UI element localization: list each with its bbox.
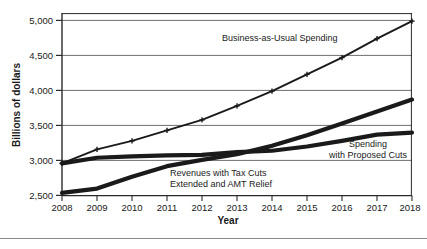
line-chart: 5,000 4,500 4,000 3,500 3,000 2,500 Bill… — [0, 0, 427, 249]
y-axis-ticks — [56, 20, 62, 195]
x-tick-label: 2008 — [51, 202, 72, 213]
y-tick-label: 5,000 — [29, 15, 53, 26]
annotation-business-as-usual: Business-as-Usual Spending — [222, 33, 338, 43]
x-tick-label: 2018 — [399, 202, 420, 213]
x-tick-label: 2009 — [86, 202, 107, 213]
y-axis-title: Billions of dollars — [11, 63, 22, 147]
y-tick-label: 3,000 — [29, 155, 53, 166]
y-tick-label: 4,000 — [29, 85, 53, 96]
y-tick-label: 2,500 — [29, 190, 53, 201]
x-tick-label: 2013 — [226, 202, 247, 213]
annotation-revenues-line2: Extended and AMT Relief — [170, 179, 272, 189]
x-tick-label: 2010 — [121, 202, 142, 213]
x-tick-label: 2011 — [157, 202, 177, 213]
annotation-spending-cuts-line1: Spending — [349, 139, 387, 149]
y-tick-label: 3,500 — [29, 120, 53, 131]
x-tick-label: 2014 — [261, 202, 282, 213]
x-axis-title: Year — [217, 215, 238, 226]
x-axis-ticks — [62, 196, 412, 201]
x-tick-label: 2017 — [366, 202, 387, 213]
x-tick-label: 2016 — [331, 202, 352, 213]
x-tick-label: 2015 — [296, 202, 317, 213]
y-axis-tick-labels: 5,000 4,500 4,000 3,500 3,000 2,500 — [29, 15, 53, 201]
annotation-spending-cuts-line2: with Proposed Cuts — [328, 150, 408, 160]
chart-figure: 5,000 4,500 4,000 3,500 3,000 2,500 Bill… — [0, 0, 427, 249]
x-tick-label: 2012 — [191, 202, 212, 213]
annotation-revenues-line1: Revenues with Tax Cuts — [170, 168, 267, 178]
x-axis-tick-labels: 2008 2009 2010 2011 2012 2013 2014 2015 … — [51, 202, 420, 213]
y-tick-label: 4,500 — [29, 50, 53, 61]
footer-divider — [0, 238, 427, 239]
